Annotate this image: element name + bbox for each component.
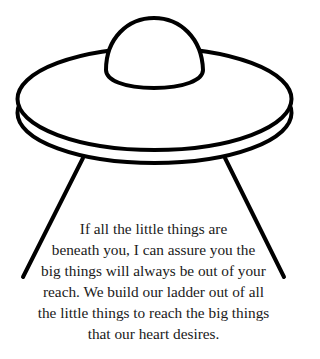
quote-line: the little things to reach the big thing…	[20, 302, 287, 323]
quote-line: reach. We build our ladder out of all	[20, 281, 287, 302]
quote-line: If all the little things are	[20, 218, 287, 239]
quote-text: If all the little things are beneath you…	[20, 218, 287, 344]
saucer-dome	[106, 18, 203, 88]
quote-line: that our heart desires.	[20, 323, 287, 344]
quote-line: big things will always be out of your	[20, 260, 287, 281]
quote-line: beneath you, I can assure you the	[20, 239, 287, 260]
